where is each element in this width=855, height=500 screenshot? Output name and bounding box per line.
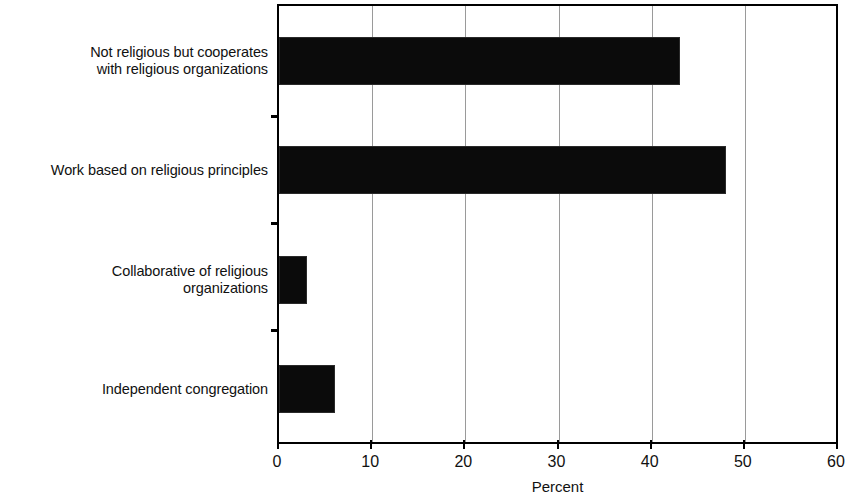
plot-area	[277, 4, 838, 444]
x-axis-tick-label: 0	[273, 452, 282, 472]
bar	[279, 37, 680, 85]
x-axis-tick-label: 40	[641, 452, 659, 472]
x-axis-tick-label: 60	[827, 452, 845, 472]
bar	[279, 365, 335, 413]
x-axis-tick-label: 20	[454, 452, 472, 472]
x-axis-tick	[370, 440, 372, 449]
bar-chart: Not religious but cooperates with religi…	[0, 0, 855, 500]
category-label: Work based on religious principles	[0, 162, 268, 179]
x-axis-tick-label: 30	[548, 452, 566, 472]
category-label: Independent congregation	[0, 381, 268, 398]
x-axis-title: Percent	[277, 478, 838, 496]
x-axis-tick	[277, 440, 279, 449]
x-axis-tick-labels: 0102030405060	[277, 452, 838, 474]
x-axis-tick	[557, 440, 559, 449]
x-axis-ticks	[277, 444, 838, 452]
x-axis-tick	[836, 440, 838, 449]
bar	[279, 256, 307, 304]
category-label: Collaborative of religious organizations	[0, 263, 268, 297]
x-axis-tick	[743, 440, 745, 449]
x-axis-tick	[463, 440, 465, 449]
bar	[279, 146, 726, 194]
x-axis-tick-label: 10	[361, 452, 379, 472]
x-axis-tick	[650, 440, 652, 449]
category-label: Not religious but cooperates with religi…	[0, 44, 268, 78]
x-axis-tick-label: 50	[734, 452, 752, 472]
category-label-column: Not religious but cooperates with religi…	[0, 4, 268, 444]
gridline	[745, 6, 746, 442]
